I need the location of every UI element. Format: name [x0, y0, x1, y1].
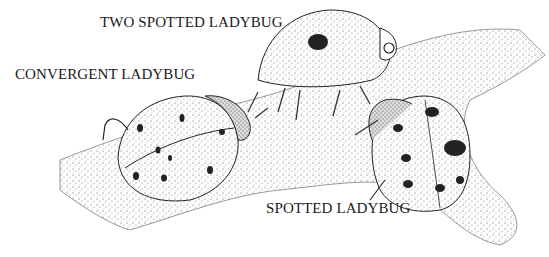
spot: [308, 34, 328, 50]
label-two-spotted-ladybug: TWO SPOTTED LADYBUG: [100, 14, 283, 31]
spotted-ladybug: [355, 96, 470, 211]
ladybug-illustration: [0, 0, 549, 257]
label-spotted-ladybug: SPOTTED LADYBUG: [266, 200, 410, 217]
label-convergent-ladybug: CONVERGENT LADYBUG: [15, 66, 195, 83]
